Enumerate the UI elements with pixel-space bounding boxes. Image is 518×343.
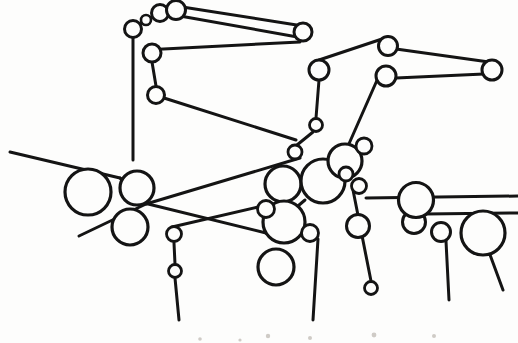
node-circle <box>339 167 353 181</box>
node-circle <box>352 179 367 194</box>
node-circle <box>461 211 505 255</box>
node-circle <box>347 215 370 238</box>
node-circle <box>112 209 148 245</box>
scan-speck <box>372 333 377 338</box>
figure-canvas <box>0 0 518 343</box>
node-circle <box>309 60 329 80</box>
node-circle <box>365 282 378 295</box>
node-circle <box>258 201 275 218</box>
edge-line <box>366 196 518 198</box>
node-circle <box>379 37 398 56</box>
node-circle <box>120 171 154 205</box>
node-circle <box>288 145 302 159</box>
node-circle <box>432 223 451 242</box>
node-circle <box>294 23 312 41</box>
scan-speck <box>238 338 241 341</box>
node-circle <box>376 66 396 86</box>
node-circle <box>258 249 294 285</box>
node-circle <box>167 1 186 20</box>
scan-speck <box>308 336 312 340</box>
node-circle <box>125 21 142 38</box>
scan-speck <box>198 337 202 341</box>
node-circle <box>167 227 182 242</box>
node-link-diagram <box>0 0 518 343</box>
node-circle <box>169 265 182 278</box>
edge-line <box>174 243 175 264</box>
scan-speck <box>266 334 270 338</box>
node-circle <box>302 225 319 242</box>
node-circle <box>356 138 372 154</box>
node-circle <box>310 119 323 132</box>
node-circle <box>148 87 165 104</box>
node-circle <box>141 15 151 25</box>
node-circle <box>265 166 301 202</box>
node-circle <box>482 60 502 80</box>
node-circle <box>399 183 434 218</box>
node-circle <box>65 169 111 215</box>
scan-speck <box>432 334 436 338</box>
node-circle <box>143 44 161 62</box>
